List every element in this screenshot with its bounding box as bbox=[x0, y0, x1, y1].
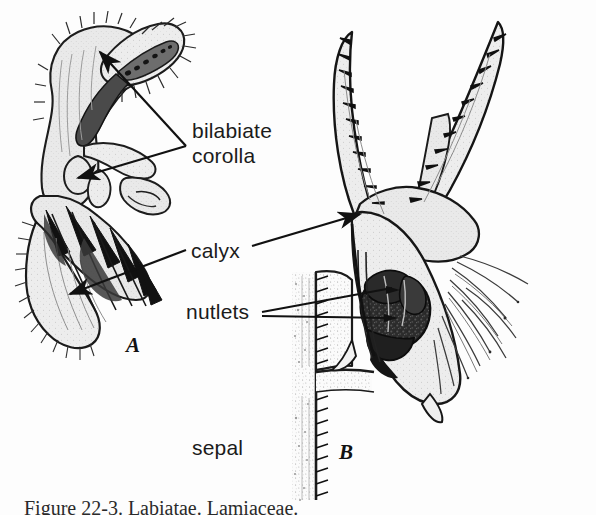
figure-illustration: bilabiate corolla calyx nutlets sepal A … bbox=[0, 0, 596, 515]
label-bilabiate-line1: bilabiate bbox=[192, 119, 272, 142]
illustration-artwork bbox=[0, 0, 596, 515]
label-sepal: sepal bbox=[192, 435, 243, 460]
panel-label-b: B bbox=[339, 440, 353, 465]
figure-caption: Figure 22-3. Labiatae. Lamiaceae. bbox=[24, 497, 298, 515]
panel-label-a: A bbox=[126, 333, 140, 358]
label-bilabiate-line2: corolla bbox=[192, 143, 272, 168]
label-calyx: calyx bbox=[191, 238, 240, 263]
label-nutlets: nutlets bbox=[186, 299, 249, 324]
label-bilabiate-corolla: bilabiate corolla bbox=[192, 118, 272, 168]
